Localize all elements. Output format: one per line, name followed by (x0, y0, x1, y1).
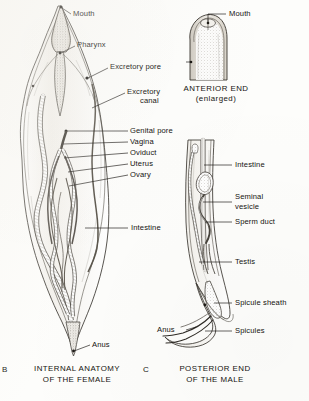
label-mouth-anterior: Mouth (229, 10, 251, 19)
label-testis: Testis (235, 258, 255, 267)
anterior-end-figure (186, 15, 227, 80)
caption-male-line1: POSTERIOR END (163, 364, 267, 374)
label-excretory-canal-line2: canal (140, 97, 159, 106)
caption-male-line2: OF THE MALE (163, 375, 267, 385)
female-lateral-node-left (32, 85, 35, 88)
label-intestine-male: Intestine (235, 161, 265, 170)
label-seminal-vesicle-line2: vesicle (235, 203, 259, 212)
label-uterus: Uterus (130, 160, 153, 169)
label-vagina: Vagina (130, 138, 154, 147)
label-anus-male: Anus (157, 326, 175, 335)
male-spicule-3 (181, 313, 209, 327)
label-seminal-vesicle: Seminal (235, 193, 263, 202)
label-spicule-sheath: Spicule sheath (235, 299, 287, 308)
caption-female-line2: OF THE FEMALE (18, 375, 136, 385)
caption-anterior-line1: ANTERIOR END (176, 84, 256, 94)
label-pharynx-female: Pharynx (77, 41, 106, 50)
label-oviduct: Oviduct (130, 149, 157, 158)
male-worm-figure (163, 140, 233, 347)
panel-letter-b: B (2, 365, 8, 374)
label-anus-female: Anus (92, 341, 110, 350)
female-pharynx-node (59, 52, 62, 55)
label-ovary: Ovary (130, 171, 151, 180)
label-intestine-female: Intestine (131, 224, 161, 233)
male-anus-point (204, 304, 207, 307)
anterior-mouth-point (207, 22, 210, 25)
caption-female-line1: INTERNAL ANATOMY (18, 364, 136, 374)
caption-anterior-line2: (enlarged) (176, 94, 256, 104)
label-genital-pore: Genital pore (130, 127, 173, 136)
label-excretory-pore: Excretory pore (110, 63, 161, 72)
label-sperm-duct: Sperm duct (235, 218, 275, 227)
leader-excretory-pore (88, 68, 108, 78)
panel-letter-c: C (143, 365, 149, 374)
label-mouth-female: Mouth (73, 10, 95, 19)
label-spicules: Spicules (235, 327, 265, 336)
